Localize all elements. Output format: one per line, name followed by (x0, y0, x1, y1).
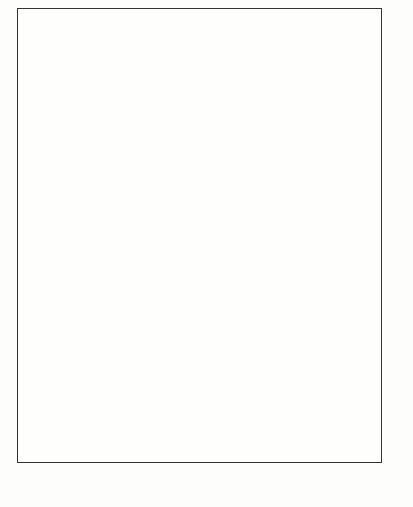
spectra-traces (0, 0, 413, 507)
spectra-figure (0, 0, 413, 507)
